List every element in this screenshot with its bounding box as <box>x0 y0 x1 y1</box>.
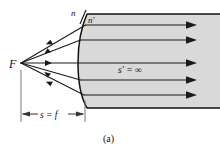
incident-arrowhead-1 <box>46 40 53 45</box>
refracting-medium-group <box>78 14 220 108</box>
incident-arrowhead-3 <box>45 60 52 66</box>
figure-canvas: F n n′ s′ = ∞ s = f (a) <box>0 0 220 150</box>
incident-rays-group <box>21 25 86 95</box>
incident-arrowhead-5 <box>46 82 53 87</box>
focal-point-label: F <box>8 57 17 71</box>
object-distance-label: s = f <box>40 110 59 120</box>
refracting-medium-shape <box>78 14 220 108</box>
image-distance-label: s′ = ∞ <box>118 65 142 75</box>
dimension-arrowhead-right <box>76 111 85 116</box>
incident-ray-1 <box>21 25 86 63</box>
figure-caption: (a) <box>103 133 114 145</box>
dimension-arrowhead-left <box>22 111 31 116</box>
incident-ray-4 <box>21 63 81 80</box>
index-left-label: n <box>71 8 76 18</box>
index-right-label: n′ <box>88 15 96 25</box>
incident-ray-5 <box>21 63 84 95</box>
optics-figure: F n n′ s′ = ∞ s = f (a) <box>0 0 220 150</box>
